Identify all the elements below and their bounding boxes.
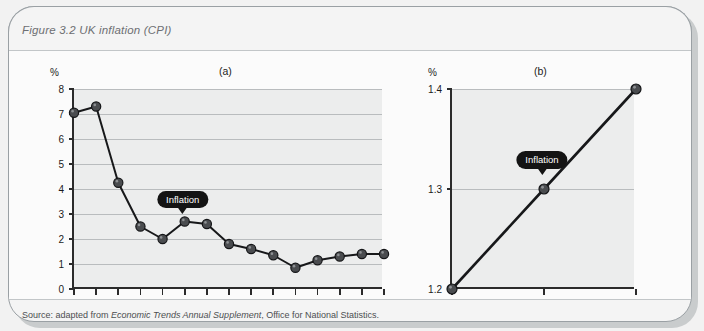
y-tick-label: 3 bbox=[58, 209, 64, 220]
plot-area-b bbox=[450, 89, 634, 289]
data-point-highlight bbox=[337, 254, 340, 257]
data-point-marker bbox=[224, 239, 233, 248]
data-point-marker bbox=[202, 219, 211, 228]
data-point-highlight bbox=[116, 180, 119, 183]
y-axis-unit-label-a: % bbox=[50, 67, 59, 78]
x-tick-mark bbox=[317, 289, 319, 295]
x-tick-mark bbox=[272, 289, 274, 295]
y-tick-label: 1.3 bbox=[428, 184, 442, 195]
x-tick-label: 2001 bbox=[439, 298, 461, 300]
x-tick-label: 2002 bbox=[531, 298, 553, 300]
data-point-highlight bbox=[359, 251, 362, 254]
y-axis-unit-label-b: % bbox=[428, 67, 437, 78]
data-point-highlight bbox=[71, 110, 74, 113]
page-title: Figure 3.2 UK inflation (CPI) bbox=[22, 24, 172, 36]
data-point-marker bbox=[335, 252, 344, 261]
series-a bbox=[74, 89, 384, 289]
x-tick-label: 1990 bbox=[61, 298, 83, 300]
x-tick-mark bbox=[73, 289, 75, 295]
y-tick-label: 5 bbox=[58, 159, 64, 170]
series-b bbox=[452, 89, 636, 289]
data-point-marker bbox=[136, 222, 145, 231]
data-point-marker bbox=[313, 256, 322, 265]
y-tick-label: 1.4 bbox=[428, 84, 442, 95]
data-point-marker bbox=[92, 102, 101, 111]
data-point-marker bbox=[180, 217, 189, 226]
x-tick-mark bbox=[117, 289, 119, 295]
data-point-highlight bbox=[93, 104, 96, 107]
data-point-marker bbox=[631, 84, 641, 94]
inflation-callout-a: Inflation bbox=[157, 191, 208, 209]
panel-label-a: (a) bbox=[219, 65, 232, 77]
figure-card: Figure 3.2 UK inflation (CPI) % (a) 0123… bbox=[0, 0, 704, 331]
panel-label-b: (b) bbox=[534, 65, 547, 77]
source-suffix: , Office for National Statistics. bbox=[261, 310, 379, 320]
x-tick-label: 95 bbox=[177, 298, 188, 300]
x-tick-mark bbox=[184, 289, 186, 295]
x-tick-mark bbox=[95, 289, 97, 295]
x-tick-mark bbox=[543, 289, 545, 295]
x-tick-label: 2000 bbox=[282, 298, 304, 300]
data-point-marker bbox=[447, 284, 457, 294]
x-tick-mark bbox=[295, 289, 297, 295]
y-tick-label: 8 bbox=[58, 84, 64, 95]
chart-a: % (a) 012345678199095200004Inflation bbox=[9, 51, 409, 300]
x-tick-mark bbox=[339, 289, 341, 295]
data-point-highlight bbox=[160, 236, 163, 239]
x-tick-mark bbox=[383, 289, 385, 295]
source-note: Source: adapted from Economic Trends Ann… bbox=[22, 310, 379, 320]
charts-panel: % (a) 012345678199095200004Inflation % (… bbox=[9, 50, 691, 300]
x-tick-mark bbox=[228, 289, 230, 295]
data-point-marker bbox=[291, 263, 300, 272]
data-point-marker bbox=[539, 184, 549, 194]
y-tick-label: 1 bbox=[58, 259, 64, 270]
data-point-marker bbox=[69, 108, 78, 117]
data-point-marker bbox=[379, 249, 388, 258]
data-point-highlight bbox=[182, 219, 185, 222]
source-prefix: Source: adapted from bbox=[22, 310, 111, 320]
data-point-highlight bbox=[381, 251, 384, 254]
y-tick-label: 4 bbox=[58, 184, 64, 195]
data-point-highlight bbox=[633, 86, 636, 89]
inflation-callout-b: Inflation bbox=[516, 151, 567, 169]
data-point-highlight bbox=[293, 265, 296, 268]
x-tick-label: 2003 bbox=[623, 298, 645, 300]
data-point-highlight bbox=[541, 186, 544, 189]
x-tick-mark bbox=[206, 289, 208, 295]
x-tick-mark bbox=[361, 289, 363, 295]
y-tick-label: 0 bbox=[58, 284, 64, 295]
chart-b: % (b) 1.21.31.4200120022003Inflation bbox=[409, 51, 691, 300]
y-tick-label: 7 bbox=[58, 109, 64, 120]
x-tick-mark bbox=[162, 289, 164, 295]
data-point-highlight bbox=[226, 241, 229, 244]
data-point-marker bbox=[247, 244, 256, 253]
data-point-highlight bbox=[204, 221, 207, 224]
plot-area-a bbox=[72, 89, 382, 289]
y-tick-label: 2 bbox=[58, 234, 64, 245]
data-point-marker bbox=[269, 251, 278, 260]
data-point-highlight bbox=[271, 252, 274, 255]
data-point-marker bbox=[114, 178, 123, 187]
data-point-highlight bbox=[138, 224, 141, 227]
y-tick-label: 1.2 bbox=[428, 284, 442, 295]
data-point-highlight bbox=[248, 246, 251, 249]
x-tick-mark bbox=[140, 289, 142, 295]
x-tick-mark bbox=[635, 289, 637, 295]
x-tick-mark bbox=[250, 289, 252, 295]
data-point-highlight bbox=[315, 257, 318, 260]
y-tick-label: 6 bbox=[58, 134, 64, 145]
x-tick-label: 04 bbox=[376, 298, 387, 300]
data-point-highlight bbox=[449, 286, 452, 289]
source-publication: Economic Trends Annual Supplement bbox=[111, 310, 261, 320]
data-point-marker bbox=[357, 249, 366, 258]
data-point-marker bbox=[158, 234, 167, 243]
